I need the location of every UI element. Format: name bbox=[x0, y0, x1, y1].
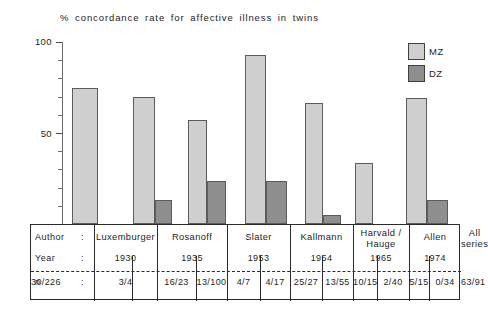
bar-mz-3[interactable] bbox=[188, 120, 207, 224]
bar-mz-5[interactable] bbox=[245, 55, 266, 224]
legend: MZ DZ bbox=[408, 40, 444, 84]
plot-area: 100 50 bbox=[0, 0, 482, 225]
cell-n-dz-5: 0/34 bbox=[429, 277, 461, 287]
cell-author-6: Allseries bbox=[461, 228, 488, 250]
cell-author-1: Rosanoff bbox=[157, 232, 227, 242]
y-axis-line bbox=[62, 42, 63, 225]
y-tick-40 bbox=[58, 151, 62, 152]
y-tick-100 bbox=[56, 42, 62, 43]
cell-author-4-line-0: Harvald / bbox=[353, 228, 409, 239]
bar-dz-12[interactable] bbox=[427, 200, 448, 224]
row-colon-year: : bbox=[81, 253, 84, 263]
bar-mz-7[interactable] bbox=[305, 103, 323, 224]
row-label-year: Year bbox=[35, 253, 55, 263]
y-tick-20 bbox=[58, 188, 62, 189]
y-tick-60 bbox=[58, 115, 62, 116]
cell-author-0: Luxemburger bbox=[94, 232, 157, 242]
cell-n-mz-1: 16/23 bbox=[157, 277, 196, 287]
cell-n-dz-4: 2/40 bbox=[377, 277, 409, 287]
y-tick-80 bbox=[58, 78, 62, 79]
square-swatch-icon-dz bbox=[408, 65, 425, 82]
data-table: Author:Year:n:Luxemburger19303/4Rosanoff… bbox=[30, 224, 460, 300]
bar-dz-8[interactable] bbox=[323, 215, 341, 224]
y-axis-label-100: 100 bbox=[22, 36, 52, 47]
legend-item-mz: MZ bbox=[408, 40, 444, 62]
cell-author-4-line-1: Hauge bbox=[353, 239, 409, 250]
cell-year-5: 1974 bbox=[409, 253, 461, 263]
legend-label-dz: DZ bbox=[429, 68, 443, 79]
cell-year-4: 1965 bbox=[353, 253, 409, 263]
cell-author-2: Slater bbox=[227, 232, 290, 242]
legend-item-dz: DZ bbox=[408, 62, 444, 84]
table-dashed-separator bbox=[31, 271, 461, 272]
y-tick-70 bbox=[58, 97, 62, 98]
bar-mz-0[interactable] bbox=[72, 88, 98, 225]
bar-dz-2[interactable] bbox=[155, 200, 172, 224]
cell-n-mz-4: 10/15 bbox=[353, 277, 377, 287]
cell-n-dz-3: 13/55 bbox=[322, 277, 353, 287]
y-axis-label-50: 50 bbox=[22, 128, 52, 139]
cell-n-mz-5: 5/15 bbox=[409, 277, 429, 287]
cell-n-dz-2: 4/17 bbox=[260, 277, 290, 287]
bar-mz-11[interactable] bbox=[406, 98, 427, 224]
row-label-author: Author bbox=[35, 232, 65, 242]
cell-year-0: 1930 bbox=[94, 253, 157, 263]
cell-year-2: 1953 bbox=[227, 253, 290, 263]
cell-author-4: Harvald /Hauge bbox=[353, 228, 409, 250]
cell-author-6-line-0: All bbox=[461, 228, 488, 239]
cell-n-mz-2: 4/7 bbox=[227, 277, 260, 287]
cell-n-mz-3: 25/27 bbox=[290, 277, 322, 287]
cell-n-dz-1: 13/100 bbox=[196, 277, 227, 287]
cell-n-dz-6: 30/226 bbox=[31, 277, 61, 287]
bar-dz-6[interactable] bbox=[266, 181, 287, 224]
y-tick-90 bbox=[58, 60, 62, 61]
y-tick-10 bbox=[58, 206, 62, 207]
legend-label-mz: MZ bbox=[429, 46, 444, 57]
cell-author-3: Kallmann bbox=[290, 232, 353, 242]
row-colon-n: : bbox=[81, 277, 84, 287]
cell-n-mz-6: 63/91 bbox=[461, 277, 486, 287]
row-colon-author: : bbox=[81, 232, 84, 242]
cell-year-1: 1935 bbox=[157, 253, 227, 263]
y-tick-30 bbox=[58, 169, 62, 170]
y-tick-50 bbox=[56, 133, 62, 134]
cell-year-3: 1954 bbox=[290, 253, 353, 263]
cell-author-6-line-1: series bbox=[461, 239, 488, 250]
cell-n-mz-0: 3/4 bbox=[94, 277, 157, 287]
bar-mz-9[interactable] bbox=[355, 163, 373, 224]
cell-author-5: Allen bbox=[409, 232, 461, 242]
bar-dz-4[interactable] bbox=[207, 181, 226, 224]
bar-mz-1[interactable] bbox=[133, 97, 155, 224]
square-swatch-icon-mz bbox=[408, 43, 425, 60]
